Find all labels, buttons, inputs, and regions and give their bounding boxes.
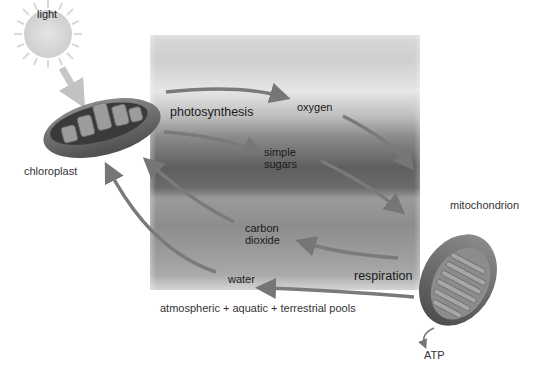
label-light: light (37, 8, 57, 20)
arrow-to-carbon-dioxide (302, 242, 398, 258)
arrow-oxygen-to-mitochondrion (343, 116, 410, 165)
label-chloroplast: chloroplast (24, 165, 77, 177)
carbon-oxygen-cycle-diagram: light chloroplast mitochondrion photosyn… (0, 0, 540, 367)
label-respiration: respiration (354, 270, 412, 283)
chloroplast-icon (37, 87, 166, 168)
label-mitochondrion: mitochondrion (450, 199, 519, 211)
arrow-to-simple-sugars (164, 132, 258, 152)
arrow-to-water (262, 288, 414, 297)
arrow-water-to-chloroplast (108, 168, 216, 272)
light-arrow (62, 68, 78, 96)
label-carbon-dioxide: carbon dioxide (245, 222, 280, 246)
label-photosynthesis: photosynthesis (170, 106, 253, 119)
caption-pools: atmospheric + aquatic + terrestrial pool… (160, 302, 356, 314)
arrow-sugars-to-mitochondrion (321, 161, 400, 210)
mitochondrion-icon (404, 221, 513, 340)
label-water: water (228, 273, 255, 285)
arrow-co2-to-chloroplast (148, 162, 234, 222)
arrow-to-atp (424, 328, 434, 346)
label-atp: ATP (424, 349, 445, 361)
arrow-to-oxygen (166, 89, 284, 97)
label-simple-sugars: simple sugars (264, 146, 297, 170)
label-oxygen: oxygen (297, 101, 332, 113)
